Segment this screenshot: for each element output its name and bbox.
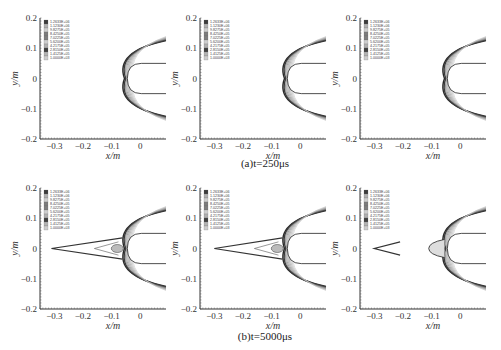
svg-text:y/m: y/m [169,241,180,256]
svg-text:0: 0 [458,311,463,321]
svg-text:0.2: 0.2 [346,183,357,193]
svg-text:1.0000E+03: 1.0000E+03 [370,56,390,60]
svg-text:0: 0 [138,141,143,151]
svg-text:0: 0 [138,311,143,321]
svg-text:1.0000E+03: 1.0000E+03 [50,226,70,230]
svg-text:1.0000E+03: 1.0000E+03 [210,56,230,60]
contour-panel: −0.3−0.2−0.100.20.10−0.1−0.2x/my/m1.2633… [160,8,320,168]
svg-text:0: 0 [353,74,358,84]
svg-text:−0.3: −0.3 [366,141,383,151]
svg-text:0.1: 0.1 [346,213,357,223]
svg-text:−0.2: −0.2 [235,141,251,151]
svg-text:0.1: 0.1 [26,213,37,223]
svg-text:−0.3: −0.3 [206,141,223,151]
svg-text:0.1: 0.1 [346,43,357,53]
svg-text:0.1: 0.1 [186,43,197,53]
svg-text:0.2: 0.2 [186,13,197,23]
svg-text:−0.2: −0.2 [21,304,37,314]
svg-text:x/m: x/m [105,150,120,161]
svg-text:−0.3: −0.3 [366,311,383,321]
contour-panel: −0.3−0.2−0.100.20.10−0.1−0.2x/my/m1.2633… [160,178,320,338]
svg-text:−0.3: −0.3 [46,141,63,151]
contour-panel: −0.3−0.2−0.100.20.10−0.1−0.2x/my/m1.2633… [0,8,160,168]
svg-text:y/m: y/m [169,71,180,86]
contour-panel: −0.3−0.2−0.100.20.10−0.1−0.2x/my/m1.2633… [320,8,480,168]
svg-text:0: 0 [458,141,463,151]
svg-text:0: 0 [33,244,38,254]
caption-b: (b)t=5000μs [205,330,325,342]
svg-text:y/m: y/m [329,241,340,256]
svg-text:−0.2: −0.2 [235,311,251,321]
svg-text:−0.1: −0.1 [21,104,37,114]
svg-text:1.0000E+03: 1.0000E+03 [50,56,70,60]
caption-a: (a)t=250μs [205,157,325,169]
svg-text:x/m: x/m [425,320,440,331]
svg-text:0: 0 [193,244,198,254]
contour-panel: −0.3−0.2−0.100.20.10−0.1−0.2x/my/m1.2633… [320,178,480,338]
svg-text:0: 0 [298,141,303,151]
svg-text:0.2: 0.2 [26,183,37,193]
svg-text:y/m: y/m [9,71,20,86]
svg-text:0.2: 0.2 [346,13,357,23]
svg-text:−0.2: −0.2 [21,134,37,144]
svg-text:1.0000E+03: 1.0000E+03 [210,226,230,230]
svg-text:−0.1: −0.1 [21,274,37,284]
svg-text:−0.2: −0.2 [395,311,411,321]
svg-text:x/m: x/m [105,320,120,331]
svg-text:−0.3: −0.3 [206,311,223,321]
svg-text:−0.2: −0.2 [181,304,197,314]
svg-text:0.1: 0.1 [26,43,37,53]
svg-text:−0.2: −0.2 [341,304,357,314]
svg-text:x/m: x/m [425,150,440,161]
svg-text:1.0000E+03: 1.0000E+03 [370,226,390,230]
svg-text:−0.2: −0.2 [181,134,197,144]
svg-text:0: 0 [298,311,303,321]
svg-text:y/m: y/m [9,241,20,256]
svg-text:0: 0 [193,74,198,84]
svg-text:0.1: 0.1 [186,213,197,223]
svg-text:−0.1: −0.1 [341,104,357,114]
svg-text:−0.1: −0.1 [181,274,197,284]
svg-text:−0.1: −0.1 [181,104,197,114]
svg-text:−0.2: −0.2 [75,141,91,151]
svg-text:−0.1: −0.1 [341,274,357,284]
svg-text:0: 0 [353,244,358,254]
svg-text:0.2: 0.2 [26,13,37,23]
svg-text:−0.2: −0.2 [395,141,411,151]
svg-text:y/m: y/m [329,71,340,86]
svg-text:0: 0 [33,74,38,84]
svg-text:0.2: 0.2 [186,183,197,193]
contour-panel: −0.3−0.2−0.100.20.10−0.1−0.2x/my/m1.2633… [0,178,160,338]
svg-text:−0.2: −0.2 [341,134,357,144]
svg-text:−0.2: −0.2 [75,311,91,321]
svg-text:−0.3: −0.3 [46,311,63,321]
